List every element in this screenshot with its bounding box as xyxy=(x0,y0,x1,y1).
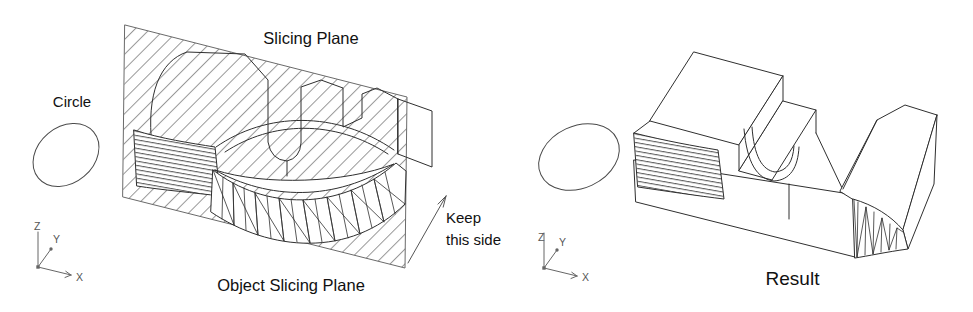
circle-shape-result xyxy=(528,111,630,203)
diagram-svg: Z Y X xyxy=(0,0,973,312)
keep-direction-arrow-icon xyxy=(408,196,446,263)
slicing-plane-label: Slicing Plane xyxy=(240,29,382,49)
circle-label: Circle xyxy=(28,93,116,111)
origin-marker xyxy=(542,266,545,269)
left-figure: Z Y X xyxy=(20,25,446,283)
y-axis xyxy=(544,250,557,268)
right-figure: Z Y X xyxy=(528,52,937,283)
y-axis-label: Y xyxy=(559,236,566,248)
keep-this-side-label: Keep this side xyxy=(446,207,502,251)
origin-marker xyxy=(36,265,39,268)
x-axis-label: X xyxy=(76,271,83,283)
y-axis-dot xyxy=(49,247,52,250)
x-axis-label: X xyxy=(582,271,589,283)
slice-operation-diagram: Z Y X xyxy=(0,0,973,312)
y-axis xyxy=(38,249,51,267)
circle-shape xyxy=(20,110,111,199)
ucs-triad-icon: Z Y X xyxy=(34,220,83,283)
result-object xyxy=(634,52,937,258)
x-axis xyxy=(38,267,71,278)
object-slicing-plane-label: Object Slicing Plane xyxy=(198,276,384,296)
z-axis-label: Z xyxy=(34,220,41,232)
result-label: Result xyxy=(735,268,850,291)
y-axis-label: Y xyxy=(53,233,60,245)
ucs-triad-icon-result: Z Y X xyxy=(538,231,589,283)
x-axis xyxy=(544,268,577,279)
z-axis-label: Z xyxy=(538,231,545,243)
y-axis-dot xyxy=(555,248,558,251)
